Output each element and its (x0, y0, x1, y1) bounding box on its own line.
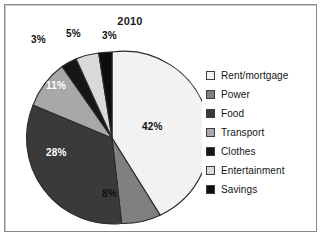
legend-item-clothes[interactable]: Clothes (206, 142, 316, 160)
legend-item-rent-mortgage[interactable]: Rent/mortgage (206, 66, 316, 84)
pie-chart-screenshot: 2010 42% 8% 28% 11% 3% 5% 3% (0, 0, 323, 238)
legend-label-entertainment: Entertainment (221, 165, 285, 176)
pie-chart: 42% 8% 28% 11% 3% 5% 3% (22, 48, 202, 228)
chart-title: 2010 (0, 15, 260, 27)
legend-label-power: Power (221, 89, 250, 100)
legend-swatch-savings-icon (206, 185, 215, 194)
legend-item-savings[interactable]: Savings (206, 180, 316, 198)
slice-label-clothes: 3% (31, 34, 46, 45)
legend-label-clothes: Clothes (221, 146, 256, 157)
slice-label-rent-mortgage: 42% (142, 121, 163, 132)
legend-swatch-food-icon (206, 109, 215, 118)
legend-swatch-transport-icon (206, 128, 215, 137)
slice-label-food: 28% (46, 147, 67, 158)
legend-item-food[interactable]: Food (206, 104, 316, 122)
legend: Rent/mortgage Power Food Transport Cloth… (206, 66, 316, 199)
legend-label-food: Food (221, 108, 244, 119)
legend-label-savings: Savings (221, 184, 257, 195)
legend-item-entertainment[interactable]: Entertainment (206, 161, 316, 179)
legend-swatch-rent-mortgage-icon (206, 71, 215, 80)
legend-swatch-power-icon (206, 90, 215, 99)
slice-label-transport: 11% (46, 80, 66, 91)
legend-swatch-clothes-icon (206, 147, 215, 156)
pie-svg (22, 48, 202, 228)
slice-label-entertainment: 5% (66, 28, 81, 39)
slice-label-power: 8% (102, 188, 117, 199)
legend-label-transport: Transport (221, 127, 264, 138)
legend-item-power[interactable]: Power (206, 85, 316, 103)
legend-item-transport[interactable]: Transport (206, 123, 316, 141)
legend-swatch-entertainment-icon (206, 166, 215, 175)
legend-label-rent-mortgage: Rent/mortgage (221, 70, 288, 81)
slice-label-savings: 3% (102, 30, 117, 41)
